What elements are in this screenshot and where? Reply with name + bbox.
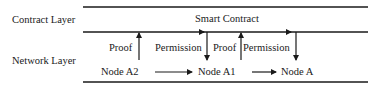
proof-label-2: Proof (213, 43, 236, 54)
smart-contract-label: Smart Contract (195, 14, 259, 25)
permission-label-2: Permission (243, 43, 290, 54)
node-a: Node A (281, 67, 313, 78)
network-layer-label: Network Layer (12, 56, 76, 67)
proof-label-1: Proof (109, 43, 132, 54)
contract-layer-label: Contract Layer (12, 15, 75, 26)
node-a1: Node A1 (198, 67, 236, 78)
node-a2: Node A2 (101, 67, 139, 78)
permission-label-1: Permission (155, 43, 202, 54)
